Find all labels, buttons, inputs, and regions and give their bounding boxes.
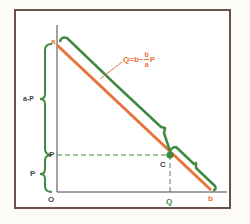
formula-fraction: b a <box>144 51 148 68</box>
diagram-canvas <box>0 0 250 224</box>
label-p-axis: P <box>49 151 54 159</box>
formula-frac-den: a <box>145 60 149 68</box>
label-origin: O <box>48 196 54 204</box>
label-a: a <box>51 38 55 46</box>
formula-frac-num: b <box>144 51 148 60</box>
label-b: b <box>208 195 213 203</box>
formula-rhs: P <box>150 55 155 64</box>
label-q-axis: Q <box>166 198 172 206</box>
demand-formula: Q=b− b a P <box>123 51 155 68</box>
formula-lhs: Q=b− <box>123 55 143 64</box>
label-a-minus-p: a-P <box>23 95 34 102</box>
label-c: C <box>160 161 166 169</box>
point-c-icon <box>167 152 174 159</box>
label-p-brace: P <box>30 170 35 178</box>
